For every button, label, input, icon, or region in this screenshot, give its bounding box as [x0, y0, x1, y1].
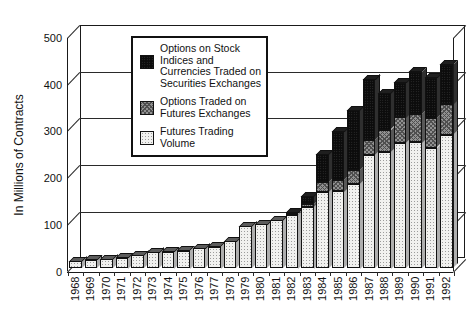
bar-1992-securities_options — [440, 65, 453, 105]
bar-1991-options_on_futures — [425, 118, 438, 147]
y-axis-title: In Millions of Contracts — [12, 70, 26, 240]
bar-1992-futures — [440, 135, 453, 268]
bar-1988-options_on_futures — [378, 130, 391, 152]
y-tick-label-0: 0 — [32, 266, 62, 278]
x-axis-tick — [392, 272, 393, 276]
bar-1978-futures — [224, 241, 237, 268]
bar-1984-options_on_futures — [316, 182, 329, 192]
x-axis-tick — [454, 272, 455, 276]
x-axis-tick — [222, 272, 223, 276]
bar-1985-options_on_futures — [332, 180, 345, 192]
grid-diagonal-left-200 — [67, 165, 80, 179]
x-axis-tick — [114, 272, 115, 276]
x-axis-tick — [377, 272, 378, 276]
bar-1987-futures — [363, 155, 376, 268]
bar-1977-futures — [208, 247, 221, 269]
x-label-1983: 1983 — [300, 277, 313, 311]
bar-1988-securities_options — [378, 93, 391, 129]
bar-1970-futures — [100, 259, 113, 268]
x-axis-line — [67, 272, 453, 273]
x-axis-tick — [191, 272, 192, 276]
x-label-1979: 1979 — [238, 277, 251, 311]
bar-1974-futures — [162, 252, 175, 269]
bar-1975-futures — [177, 251, 190, 269]
x-label-1976: 1976 — [192, 277, 205, 311]
x-label-1974: 1974 — [161, 277, 174, 311]
legend-label-options_on_futures: Options Traded on Futures Exchanges — [160, 96, 262, 119]
x-label-1978: 1978 — [223, 277, 236, 311]
y-tick-label-500: 500 — [32, 32, 62, 44]
bar-1990-futures — [409, 142, 422, 268]
bar-1986-securities_options — [347, 110, 360, 170]
bar-1983-options_on_futures — [301, 204, 314, 207]
x-axis-tick — [130, 272, 131, 276]
x-axis-tick — [315, 272, 316, 276]
x-label-1975: 1975 — [177, 277, 190, 311]
x-axis-tick — [145, 272, 146, 276]
bar-1990-securities_options — [409, 72, 422, 114]
bar-1971-futures — [116, 258, 129, 269]
bar-1968-futures — [69, 261, 82, 268]
x-axis-tick — [99, 272, 100, 276]
x-axis-tick — [83, 272, 84, 276]
bar-1990-options_on_futures — [409, 114, 422, 143]
x-label-1970: 1970 — [99, 277, 112, 311]
bar-1983-securities_options — [301, 196, 314, 204]
x-label-1969: 1969 — [84, 277, 97, 311]
x-label-1981: 1981 — [269, 277, 282, 311]
x-axis-tick — [68, 272, 69, 276]
x-label-1982: 1982 — [285, 277, 298, 311]
x-label-1977: 1977 — [208, 277, 221, 311]
y-tick-label-200: 200 — [32, 172, 62, 184]
x-label-1972: 1972 — [130, 277, 143, 311]
x-axis-tick — [439, 272, 440, 276]
bar-1984-futures — [316, 192, 329, 268]
legend-swatch-futures — [140, 131, 154, 145]
x-label-1987: 1987 — [362, 277, 375, 311]
bar-1986-futures — [347, 184, 360, 269]
legend-item-futures: Futures Trading Volume — [140, 126, 262, 149]
bar-1976-futures — [193, 248, 206, 268]
bar-1979-futures — [239, 226, 252, 268]
chart-figure: In Millions of Contracts 010020030040050… — [0, 0, 476, 313]
x-label-1985: 1985 — [331, 277, 344, 311]
x-axis-tick — [238, 272, 239, 276]
bar-1991-securities_options — [425, 78, 438, 118]
bar-1969-futures — [85, 260, 98, 268]
x-label-1973: 1973 — [146, 277, 159, 311]
x-axis-tick — [176, 272, 177, 276]
bar-1981-futures — [270, 220, 283, 268]
x-axis-tick — [253, 272, 254, 276]
bar-1991-futures — [425, 148, 438, 269]
bar-1989-futures — [394, 143, 407, 268]
bar-1982-securities_options — [286, 212, 299, 214]
x-label-1990: 1990 — [408, 277, 421, 311]
x-label-1971: 1971 — [115, 277, 128, 311]
x-label-1984: 1984 — [316, 277, 329, 311]
x-axis-tick — [408, 272, 409, 276]
x-label-1980: 1980 — [254, 277, 267, 311]
legend-swatch-options_on_futures — [140, 101, 154, 115]
x-axis-tick — [361, 272, 362, 276]
grid-diagonal-left-500 — [67, 25, 80, 39]
y-tick-label-400: 400 — [32, 79, 62, 91]
x-axis-tick — [423, 272, 424, 276]
bar-1982-futures — [286, 215, 299, 269]
bar-1972-futures — [131, 255, 144, 268]
y-tick-label-100: 100 — [32, 219, 62, 231]
bar-1987-securities_options — [363, 79, 376, 140]
x-axis-tick — [284, 272, 285, 276]
legend-label-securities_options: Options on Stock Indices and Currencies … — [160, 43, 262, 89]
bar-1984-securities_options — [316, 154, 329, 182]
legend: Options on Stock Indices and Currencies … — [131, 36, 268, 157]
legend-item-options_on_futures: Options Traded on Futures Exchanges — [140, 96, 262, 119]
x-axis-tick — [207, 272, 208, 276]
legend-label-futures: Futures Trading Volume — [160, 126, 262, 149]
right-frame-line — [453, 38, 454, 271]
bar-1985-futures — [332, 191, 345, 268]
bar-1973-futures — [147, 252, 160, 268]
x-axis-tick — [300, 272, 301, 276]
x-label-1989: 1989 — [393, 277, 406, 311]
x-label-1968: 1968 — [69, 277, 82, 311]
y-tick-label-300: 300 — [32, 125, 62, 137]
